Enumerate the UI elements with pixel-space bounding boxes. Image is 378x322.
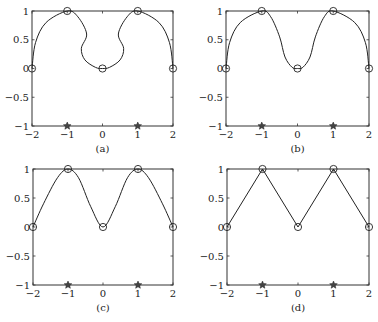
x-tick-label: 1 xyxy=(135,129,141,140)
interpolation-curve xyxy=(32,11,173,69)
y-tick-label: −1 xyxy=(209,280,224,291)
x-tick-label: 2 xyxy=(170,129,176,140)
y-tick-label: 1 xyxy=(23,6,29,17)
panel-caption: (a) xyxy=(96,143,110,154)
figure-canvas: −2−1012−1−0.500.51(a)−2−1012−1−0.500.51(… xyxy=(0,0,378,322)
panel-caption: (d) xyxy=(291,302,305,313)
x-tick-label: −1 xyxy=(254,129,269,140)
x-tick-label: 1 xyxy=(330,288,336,299)
y-tick-label: −0.5 xyxy=(199,92,223,103)
panel-b: −2−1012−1−0.500.51(b) xyxy=(199,6,373,155)
x-tick-label: 0 xyxy=(294,129,300,140)
x-tick-label: 1 xyxy=(135,288,141,299)
y-tick-label: 1 xyxy=(218,164,224,175)
x-tick-label: −1 xyxy=(255,288,270,299)
x-tick-label: 2 xyxy=(366,129,372,140)
x-tick-label: 2 xyxy=(366,288,372,299)
interpolation-curve xyxy=(33,169,173,227)
panel-caption: (c) xyxy=(96,302,110,313)
panel-a: −2−1012−1−0.500.51(a) xyxy=(5,6,177,155)
panel-d: −2−1012−1−0.500.51(d) xyxy=(200,164,373,314)
panel-c: −2−1012−1−0.500.51(c) xyxy=(6,164,177,314)
y-tick-label: 0.5 xyxy=(207,34,223,45)
y-tick-label: −1 xyxy=(15,280,30,291)
y-tick-label: −0.5 xyxy=(200,251,224,262)
x-tick-label: 0 xyxy=(295,288,301,299)
x-tick-label: −1 xyxy=(61,288,76,299)
x-tick-label: 2 xyxy=(170,288,176,299)
panel-caption: (b) xyxy=(290,143,304,154)
y-tick-label: 0.5 xyxy=(14,193,30,204)
y-tick-label: 0.5 xyxy=(13,34,29,45)
x-tick-label: 0 xyxy=(100,288,106,299)
y-tick-label: −1 xyxy=(14,121,29,132)
x-tick-label: 1 xyxy=(330,129,336,140)
y-tick-label: 1 xyxy=(217,6,223,17)
y-tick-label: 1 xyxy=(24,164,30,175)
y-tick-label: −0.5 xyxy=(6,251,30,262)
y-tick-label: −1 xyxy=(208,121,223,132)
y-tick-label: 0.5 xyxy=(208,193,224,204)
interpolation-curve xyxy=(227,169,369,227)
x-tick-label: −1 xyxy=(60,129,75,140)
interpolation-curve xyxy=(226,11,369,69)
y-tick-label: −0.5 xyxy=(5,92,29,103)
x-tick-label: 0 xyxy=(99,129,105,140)
